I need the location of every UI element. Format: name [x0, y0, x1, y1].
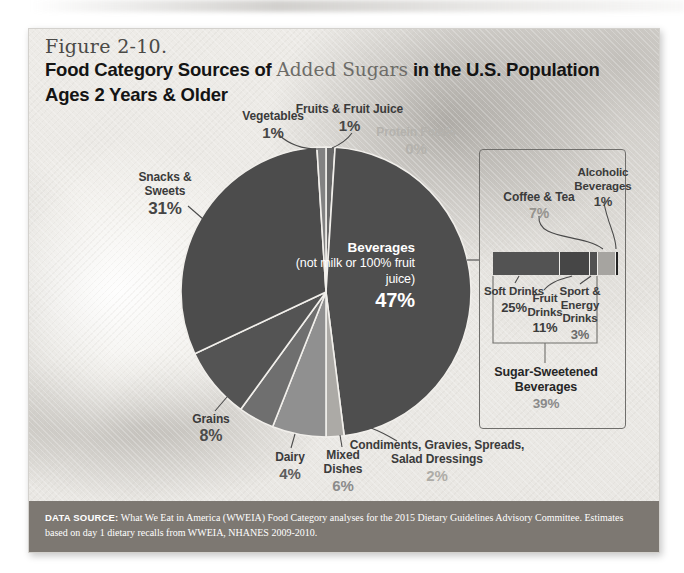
bar-label-sport-name: Sport & Energy Drinks [547, 285, 613, 326]
figure-2-10: Figure 2-10. Food Category Sources of Ad… [28, 28, 660, 553]
pie-label-protein-name: Protein Foods [366, 125, 466, 139]
page-edge-smudge [30, 0, 684, 12]
bar-pct-alcoholic: 1% [555, 194, 651, 209]
bar-segment-sport-energy-drinks [589, 252, 597, 275]
pie-label-fruits-name: Fruits & Fruit Juice [287, 102, 412, 116]
title-part1: Food Category Sources of [45, 59, 276, 80]
data-source-heading: DATA SOURCE: [45, 512, 118, 523]
figure-label: Figure 2-10. [45, 35, 645, 57]
data-source-bar: DATA SOURCE: What We Eat in America (WWE… [29, 501, 659, 552]
bar-label-sport-energy-drinks: Sport & Energy Drinks 3% [547, 285, 613, 342]
pie-label-condiments-name: Condiments, Gravies, Spreads, Salad Dres… [349, 438, 525, 466]
title-part2: in the U.S. Population [408, 59, 600, 80]
ssb-stacked-bar [493, 252, 618, 275]
pie-label-protein-foods: Protein Foods 0% [366, 125, 466, 158]
figure-title: Food Category Sources of Added Sugars in… [45, 58, 645, 82]
pie-slice-mixed-dishes [273, 292, 326, 437]
pie-pct-beverages: 47% [275, 289, 415, 313]
figure-header: Figure 2-10. Food Category Sources of Ad… [45, 35, 645, 108]
pie-pct-condiments: 2% [349, 467, 525, 485]
pie-label-grains-name: Grains [171, 412, 251, 426]
pie-label-beverages-name: Beverages [275, 240, 415, 256]
bar-segment-soft-drinks [493, 252, 559, 275]
bar-label-alcoholic-beverages: Alcoholic Beverages 1% [555, 166, 651, 209]
ssb-summary: Sugar-Sweetened Beverages 39% [476, 365, 616, 411]
ssb-summary-name: Sugar-Sweetened Beverages [476, 365, 616, 395]
title-accent: Added Sugars [276, 59, 408, 80]
bar-segment-coffee-tea [597, 252, 616, 275]
pie-label-condiments: Condiments, Gravies, Spreads, Salad Dres… [349, 438, 525, 485]
pie-slice-condiments [326, 292, 344, 437]
bar-label-alcoholic-name: Alcoholic Beverages [555, 166, 651, 193]
bar-segment-alcoholic-beverages [615, 252, 618, 275]
pie-label-grains: Grains 8% [171, 412, 251, 446]
pie-label-beverages-sub: (not milk or 100% fruit juice) [275, 256, 415, 287]
pie-pct-snacks: 31% [125, 199, 205, 219]
pie-pct-protein: 0% [366, 140, 466, 158]
pie-label-snacks-name: Snacks & Sweets [125, 170, 205, 198]
bar-pct-sport: 3% [547, 327, 613, 342]
pie-pct-grains: 8% [171, 427, 251, 446]
data-source-text: What We Eat in America (WWEIA) Food Cate… [45, 512, 623, 538]
pie-label-snacks-sweets: Snacks & Sweets 31% [125, 170, 205, 219]
ssb-summary-pct: 39% [476, 396, 616, 412]
bar-segment-fruit-drinks [559, 252, 588, 275]
pie-label-beverages: Beverages (not milk or 100% fruit juice)… [275, 240, 415, 313]
